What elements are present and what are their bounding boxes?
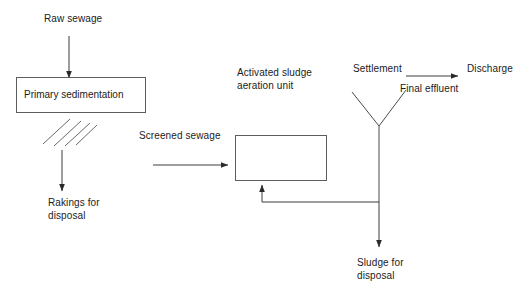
- return-sludge-arrow: [262, 185, 379, 202]
- activated-sludge-label-line2: aeration unit: [237, 79, 293, 92]
- settlement-label: Settlement: [353, 62, 402, 75]
- process-flow-diagram: Primary sedimentation Raw sewage Rakings…: [0, 0, 529, 296]
- screened-sewage-label: Screened sewage: [139, 129, 221, 142]
- aeration-unit-box: [235, 135, 327, 181]
- discharge-label: Discharge: [467, 62, 513, 75]
- rakings-disposal-label-line1: Rakings for: [48, 196, 100, 209]
- activated-sludge-label-line1: Activated sludge: [237, 66, 312, 79]
- sludge-disposal-label-line2: disposal: [357, 269, 395, 282]
- raw-sewage-label: Raw sewage: [44, 12, 102, 25]
- settlement-tank-symbol: [352, 90, 406, 201]
- screen-hatching-icon: [43, 119, 97, 146]
- primary-sedimentation-label: Primary sedimentation: [24, 89, 123, 100]
- final-effluent-label: Final effluent: [400, 82, 458, 95]
- rakings-disposal-label-line2: disposal: [48, 209, 86, 222]
- sludge-disposal-label-line1: Sludge for: [357, 256, 404, 269]
